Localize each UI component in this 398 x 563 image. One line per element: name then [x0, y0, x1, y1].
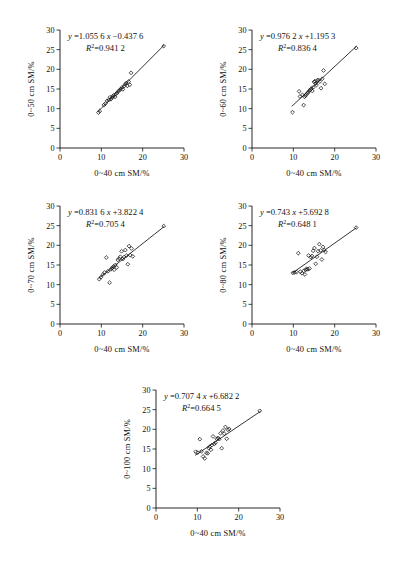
y-tick-label: 0	[242, 320, 246, 329]
x-tick-label: 10	[289, 153, 297, 162]
data-point	[120, 249, 124, 253]
data-point	[123, 248, 127, 252]
x-tick-label: 10	[97, 329, 105, 338]
x-tick-label: 20	[139, 329, 147, 338]
data-point	[322, 69, 326, 73]
y-tick-label: 10	[46, 105, 54, 114]
r-squared-value: R2=0.836 4	[277, 43, 318, 53]
x-axis-title: 0~40 cm SM/%	[286, 345, 341, 354]
y-tick-label: 30	[46, 26, 54, 35]
y-axis-title: 0~80 cm SM/%	[219, 237, 228, 292]
y-tick-label: 0	[146, 504, 150, 513]
y-tick-label: 20	[238, 65, 246, 74]
scatter-panel-c: 0510152025300102030y =0.831 6 x +3.822 4…	[8, 190, 194, 360]
data-point	[317, 242, 321, 246]
y-tick-label: 15	[142, 445, 150, 454]
y-tick-label: 10	[46, 281, 54, 290]
x-axis-title: 0~40 cm SM/%	[94, 169, 149, 178]
x-tick-label: 20	[235, 513, 243, 522]
regression-equation: y =0.831 6 x +3.822 4	[67, 207, 144, 217]
y-tick-label: 25	[238, 46, 246, 55]
scatter-panel-b: 0510152025300102030y =0.976 2 x +1.195 3…	[200, 14, 386, 184]
data-point	[108, 281, 112, 285]
x-tick-label: 30	[180, 329, 188, 338]
data-point	[225, 437, 229, 441]
x-tick-label: 20	[139, 153, 147, 162]
y-tick-label: 20	[46, 65, 54, 74]
data-point	[323, 82, 327, 86]
y-tick-label: 5	[242, 300, 246, 309]
data-point	[297, 89, 301, 93]
data-point	[104, 256, 108, 260]
y-tick-label: 30	[238, 202, 246, 211]
y-tick-label: 0	[50, 320, 54, 329]
x-tick-label: 30	[372, 329, 380, 338]
r-squared-value: R2=0.648 1	[277, 219, 317, 229]
data-point	[302, 103, 306, 107]
y-tick-label: 30	[238, 26, 246, 35]
x-tick-label: 0	[154, 513, 158, 522]
figure-container: 0510152025300102030y =1.055 6 x −0.437 6…	[0, 0, 398, 563]
y-tick-label: 0	[50, 144, 54, 153]
y-axis-title: 0~100 cm SM/%	[123, 419, 132, 479]
y-tick-label: 20	[46, 241, 54, 250]
y-tick-label: 15	[238, 261, 246, 270]
data-point	[296, 251, 300, 255]
data-point	[224, 425, 228, 429]
regression-equation: y =1.055 6 x −0.437 6	[67, 31, 144, 41]
y-tick-label: 10	[142, 465, 150, 474]
data-point	[220, 446, 224, 450]
x-tick-label: 10	[193, 513, 201, 522]
y-tick-label: 25	[238, 222, 246, 231]
y-tick-label: 30	[142, 386, 150, 395]
x-tick-label: 30	[180, 153, 188, 162]
r-squared-value: R2=0.705 4	[85, 219, 126, 229]
y-tick-label: 5	[50, 124, 54, 133]
regression-line	[195, 411, 260, 455]
y-tick-label: 5	[50, 300, 54, 309]
y-tick-label: 15	[46, 85, 54, 94]
y-tick-label: 20	[238, 241, 246, 250]
regression-equation: y =0.707 4 x +6.682 2	[163, 391, 239, 401]
y-tick-label: 25	[46, 222, 54, 231]
x-tick-label: 0	[58, 329, 62, 338]
regression-line	[293, 228, 357, 273]
data-point	[129, 71, 133, 75]
y-tick-label: 20	[142, 425, 150, 434]
y-tick-label: 30	[46, 202, 54, 211]
y-tick-label: 15	[46, 261, 54, 270]
r-squared-value: R2=0.664 5	[181, 403, 221, 413]
x-axis-title: 0~40 cm SM/%	[190, 529, 245, 538]
data-point	[314, 262, 318, 266]
y-tick-label: 10	[238, 105, 246, 114]
x-axis-title: 0~40 cm SM/%	[94, 345, 149, 354]
scatter-panel-e: 0510152025300102030y =0.707 4 x +6.682 2…	[104, 372, 290, 557]
y-axis-title: 0~70 cm SM/%	[27, 237, 36, 292]
x-tick-label: 20	[331, 329, 339, 338]
scatter-panel-d: 0510152025300102030y =0.743 x +5.692 8R2…	[200, 190, 386, 360]
scatter-panel-a: 0510152025300102030y =1.055 6 x −0.437 6…	[8, 14, 194, 184]
y-axis-title: 0~50 cm SM/%	[27, 61, 36, 116]
y-tick-label: 25	[142, 406, 150, 415]
x-tick-label: 0	[250, 329, 254, 338]
data-point	[320, 258, 324, 262]
data-point	[162, 44, 166, 48]
regression-equation: y =0.743 x +5.692 8	[259, 207, 329, 217]
y-tick-label: 5	[146, 484, 150, 493]
x-tick-label: 20	[331, 153, 339, 162]
x-tick-label: 0	[58, 153, 62, 162]
x-tick-label: 30	[276, 513, 284, 522]
data-point	[198, 437, 202, 441]
x-axis-title: 0~40 cm SM/%	[286, 169, 341, 178]
y-tick-label: 5	[242, 124, 246, 133]
regression-equation: y =0.976 2 x +1.195 3	[259, 31, 335, 41]
x-tick-label: 30	[372, 153, 380, 162]
data-point	[211, 435, 215, 439]
data-point	[126, 262, 130, 266]
r-squared-value: R2=0.941 2	[85, 43, 125, 53]
x-tick-label: 10	[289, 329, 297, 338]
x-tick-label: 10	[97, 153, 105, 162]
y-tick-label: 0	[242, 144, 246, 153]
data-point	[319, 86, 323, 90]
y-axis-title: 0~60 cm SM/%	[219, 61, 228, 116]
